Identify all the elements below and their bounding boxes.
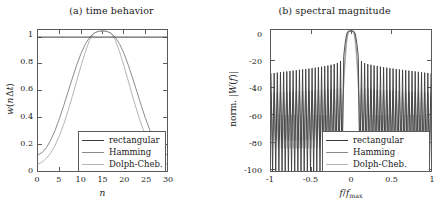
panel-a-legend[interactable]: rectangular Hamming Dolph-Cheb. (78, 131, 166, 172)
panel-spectral-magnitude: (b) spectral magnitude norm. |W(f)| f/fm… (223, 0, 446, 215)
panel-b-ytick-label: -40 (231, 84, 262, 93)
panel-b-xtick-label: 0 (348, 175, 353, 184)
panel-b-legend[interactable]: rectangular Hamming Dolph-Cheb. (322, 131, 430, 172)
legend-label-hamming: Hamming (353, 147, 395, 157)
legend-item-hamming[interactable]: Hamming (82, 146, 161, 158)
legend-item-rectangular[interactable]: rectangular (82, 134, 161, 146)
panel-a-ytick-label: 0.4 (12, 111, 33, 120)
legend-item-rectangular[interactable]: rectangular (326, 134, 425, 146)
panel-b-ytick-label: -20 (231, 57, 262, 66)
panel-b-xtick-label: 1 (429, 175, 434, 184)
panel-b-title: (b) spectral magnitude (223, 5, 446, 16)
legend-item-dolph-cheb[interactable]: Dolph-Cheb. (82, 158, 161, 170)
legend-item-hamming[interactable]: Hamming (326, 146, 425, 158)
panel-a-ytick-label: 0.8 (12, 57, 33, 66)
panel-a-xtick-label: 25 (141, 175, 151, 184)
panel-b-ytick-label: 0 (231, 30, 262, 39)
legend-label-rectangular: rectangular (353, 135, 404, 145)
panel-b-ytick-label: -60 (231, 111, 262, 120)
panel-a-xtick-label: 0 (34, 175, 39, 184)
panel-time-behavior: (a) time behavior w(n Δt) n 0 0.2 0.4 0.… (0, 0, 223, 215)
panel-a-ytick-label: 1 (12, 30, 33, 39)
panel-a-ytick-label: 0.6 (12, 84, 33, 93)
panel-a-title: (a) time behavior (0, 5, 223, 16)
panel-a-xtick-label: 15 (97, 175, 107, 184)
panel-b-xtick-label: -1 (266, 175, 274, 184)
legend-swatch-rectangular (326, 140, 348, 141)
panel-b-ytick-label: -80 (231, 138, 262, 147)
panel-a-xtick-label: 30 (163, 175, 173, 184)
panel-b-ytick-label: -100 (231, 166, 262, 175)
legend-swatch-hamming (326, 152, 348, 153)
panel-b-y-axis-label: norm. |W(f)| (228, 61, 238, 137)
panel-a-x-axis-label: n (37, 188, 168, 198)
legend-item-dolph-cheb[interactable]: Dolph-Cheb. (326, 158, 425, 170)
panel-a-xtick-label: 20 (119, 175, 129, 184)
legend-swatch-rectangular (82, 140, 104, 141)
panel-a-xtick-label: 10 (76, 175, 86, 184)
legend-label-hamming: Hamming (109, 147, 151, 157)
legend-label-rectangular: rectangular (109, 135, 160, 145)
panel-a-ytick-label: 0.2 (12, 138, 33, 147)
figure-window-comparison: (a) time behavior w(n Δt) n 0 0.2 0.4 0.… (0, 0, 446, 215)
panel-b-xtick-label: 0.5 (385, 175, 398, 184)
legend-swatch-dolph-cheb (326, 164, 348, 165)
panel-b-x-axis-label: f/fmax (270, 188, 432, 199)
panel-a-ytick-label: 0 (12, 166, 33, 175)
panel-b-xtick-label: -0.5 (303, 175, 318, 184)
legend-label-dolph-cheb: Dolph-Cheb. (109, 159, 163, 169)
legend-swatch-hamming (82, 152, 104, 153)
panel-a-xtick-label: 5 (56, 175, 61, 184)
legend-swatch-dolph-cheb (82, 164, 104, 165)
legend-label-dolph-cheb: Dolph-Cheb. (353, 159, 407, 169)
